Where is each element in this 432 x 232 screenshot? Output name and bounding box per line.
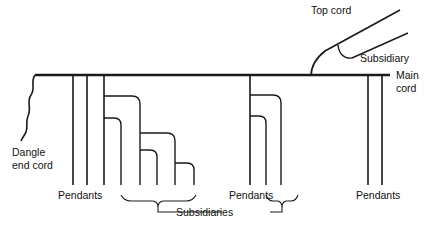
dangle-end-cord-line	[21, 75, 35, 141]
subsidiary-cord	[140, 150, 157, 185]
pendants-label-middle: Pendants	[229, 189, 273, 201]
pendants-label-right: Pendants	[356, 189, 400, 201]
quipu-diagram: Dangle end cord Pendants Pendants Pendan…	[0, 0, 432, 232]
subsidiaries-brace-left	[121, 195, 196, 206]
top-cord-label: Top cord	[311, 4, 351, 16]
subsidiary-cord	[104, 96, 140, 185]
subsidiary-cord	[175, 163, 194, 185]
main-cord-label-line2: cord	[396, 82, 417, 94]
subsidiaries-brace-right-stem	[270, 206, 282, 212]
dangle-end-cord-label-line1: Dangle	[12, 146, 45, 158]
subsidiary-label: Subsidiary	[360, 52, 410, 64]
subsidiaries-label: Subsidiaries	[176, 206, 233, 218]
quipu-diagram-canvas: Dangle end cord Pendants Pendants Pendan…	[0, 0, 432, 232]
main-cord-label-line1: Main	[396, 69, 419, 81]
subsidiary-cord	[104, 118, 121, 185]
subsidiary-cord	[250, 116, 266, 185]
dangle-end-cord-label-line2: end cord	[12, 159, 53, 171]
pendants-label-left: Pendants	[58, 189, 102, 201]
